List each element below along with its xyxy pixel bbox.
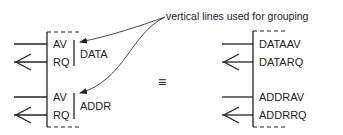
- group-label: DATA: [80, 48, 108, 60]
- group-data: AV RQ DATA: [14, 38, 108, 70]
- annotation-text: vertical lines used for grouping: [166, 10, 309, 22]
- group-label: ADDR: [80, 100, 111, 112]
- left-diagram: AV RQ DATA AV RQ ADDR: [14, 32, 111, 127]
- signal-label: RQ: [53, 109, 70, 121]
- annotation: vertical lines used for grouping: [80, 10, 309, 93]
- group-addr: AV RQ ADDR: [14, 91, 111, 123]
- grouping-diagram: AV RQ DATA AV RQ ADDR vertical lines use…: [0, 0, 343, 135]
- annotation-arrow-1: [80, 17, 165, 42]
- signal-label: AV: [53, 91, 68, 103]
- signal-label: DATAAV: [259, 38, 301, 50]
- equivalence-symbol: ≡: [158, 74, 166, 90]
- right-diagram: DATAAV DATARQ ADDRAV ADDRRQ: [222, 31, 307, 127]
- signal-label: RQ: [53, 56, 70, 68]
- signal-label: DATARQ: [259, 56, 304, 68]
- signal-label: AV: [53, 38, 68, 50]
- signal-label: ADDRRQ: [259, 109, 307, 121]
- signal-label: ADDRAV: [259, 91, 305, 103]
